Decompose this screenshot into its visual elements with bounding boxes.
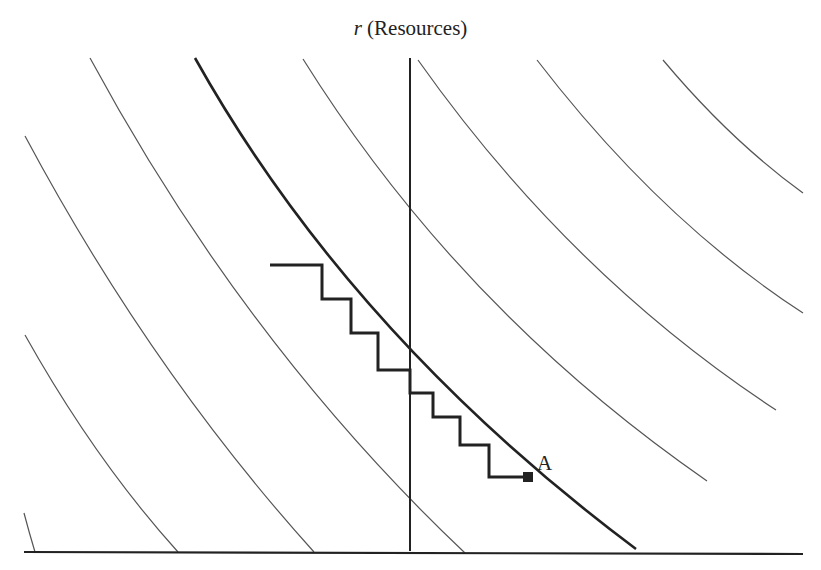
diagram-canvas [0,0,821,570]
indifference-curve-3 [90,58,465,553]
indifference-curve-7 [537,60,803,313]
indifference-curve-0 [24,513,35,552]
x-axis [24,552,803,554]
indifference-curve-8 [663,60,803,193]
point-a-label: A [537,451,552,476]
indifference-curve-2 [25,136,314,552]
indifference-curve-6 [418,60,776,410]
budget-curve [195,58,636,549]
indifference-curve-5 [303,59,707,481]
diagram: r (Resources) A [0,0,821,570]
indifference-curve-1 [25,335,178,552]
point-a-marker [523,472,533,482]
